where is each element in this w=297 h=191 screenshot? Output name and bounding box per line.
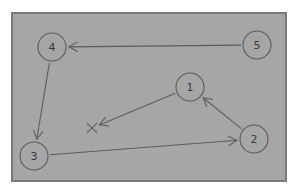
node-label: 3 <box>31 150 38 163</box>
node-label: 1 <box>187 81 194 94</box>
node-label: 2 <box>251 133 258 146</box>
node-label: 4 <box>49 41 56 54</box>
node-label: 5 <box>254 39 261 52</box>
diagram-canvas: 12345 <box>0 0 297 191</box>
